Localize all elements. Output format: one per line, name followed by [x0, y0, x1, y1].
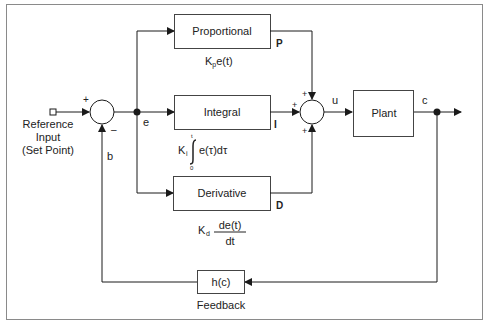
u-signal-label: u [332, 94, 338, 106]
integral-formula: K i t 0 e(τ)dτ [178, 133, 228, 171]
reference-input-terminal [50, 109, 56, 115]
integral-label: Integral [204, 106, 241, 118]
sum1-minus: – [111, 124, 117, 135]
svg-text:d: d [206, 230, 210, 237]
proportional-label: Proportional [192, 25, 251, 37]
derivative-label: Derivative [198, 187, 247, 199]
proportional-formula: Kpe(t) [205, 55, 233, 69]
feedback-block-label: h(c) [212, 276, 231, 288]
svg-text:dt: dt [225, 235, 234, 247]
svg-text:e(τ)dτ: e(τ)dτ [199, 144, 228, 156]
i-signal-label: I [274, 119, 277, 130]
reference-input-label-2: Input [36, 131, 60, 143]
plant-label: Plant [371, 107, 396, 119]
reference-input-label-3: (Set Point) [22, 144, 74, 156]
summing-junction-2 [300, 100, 324, 124]
svg-text:K: K [198, 224, 206, 236]
svg-text:t: t [191, 133, 193, 139]
sum2-plus-top: + [302, 89, 307, 99]
svg-text:de(t): de(t) [219, 219, 242, 231]
sum1-plus: + [83, 94, 89, 105]
derivative-formula: K d de(t) dt [198, 219, 246, 247]
feedback-return-line [245, 112, 437, 282]
summing-junction-1 [90, 100, 114, 124]
reference-input-label-1: Reference [23, 118, 74, 130]
pid-diagram: + – e Proportional Kpe(t) P Integral I K… [0, 0, 488, 325]
b-signal-label: b [107, 150, 113, 162]
svg-text:0: 0 [190, 165, 194, 171]
sum2-plus-bottom: + [302, 126, 307, 136]
error-signal-label: e [143, 116, 149, 128]
feedback-caption: Feedback [197, 299, 246, 311]
svg-text:i: i [186, 150, 188, 157]
c-signal-label: c [422, 94, 428, 106]
p-signal-label: P [276, 38, 283, 49]
svg-text:K: K [178, 144, 186, 156]
d-signal-label: D [276, 200, 283, 211]
sum2-plus-left: + [292, 100, 297, 110]
